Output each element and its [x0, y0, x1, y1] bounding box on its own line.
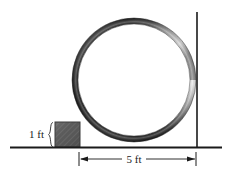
physics-diagram-figure: 1 ft 5 ft	[0, 0, 230, 177]
block-height-label: 1 ft	[29, 128, 44, 140]
block-height-dimension: 1 ft	[29, 123, 52, 147]
block-shape	[55, 122, 80, 147]
dimension-arrow-right	[187, 156, 195, 161]
dimension-arrow-left	[80, 156, 88, 161]
diagram-canvas: 1 ft 5 ft	[0, 0, 230, 177]
ground-span-dimension: 5 ft	[79, 152, 196, 166]
ring-shape	[72, 18, 196, 142]
ground-span-label: 5 ft	[127, 153, 142, 165]
